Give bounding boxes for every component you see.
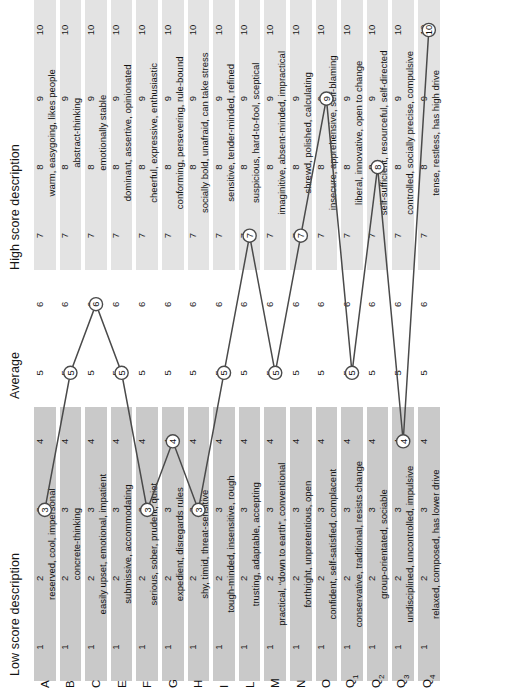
high-score-description: liberal, innovative, open to change (353, 61, 364, 205)
scale-tick: 3 (238, 507, 249, 512)
scale-tick: 7 (341, 233, 352, 238)
rotated-page-wrapper: Low score description Average High score… (0, 0, 510, 690)
factor-row: B12345678910concrete-thinkingabstract-th… (58, 0, 84, 690)
factor-label-L: L (244, 662, 256, 688)
scale-tick: 4 (392, 439, 403, 444)
scale-tick: 2 (59, 576, 70, 581)
factor-label-Q4: Q4 (421, 662, 436, 688)
scale-tick: 2 (341, 576, 352, 581)
factor-row: Q212345678910group-orientated, sociables… (365, 0, 391, 690)
low-score-description: practical, “down to earth”, conventional (276, 463, 287, 626)
scale-tick: 9 (238, 96, 249, 101)
scale-tick: 1 (290, 644, 301, 649)
scale-tick: 1 (187, 644, 198, 649)
scale-tick: 1 (264, 644, 275, 649)
scale-tick: 2 (315, 576, 326, 581)
factor-label-G: G (167, 662, 179, 688)
scale-tick: 7 (136, 233, 147, 238)
scale-tick: 1 (418, 644, 429, 649)
scale-tick: 2 (213, 576, 224, 581)
scale-tick: 8 (187, 164, 198, 169)
scale-tick: 5 (238, 370, 249, 375)
factor-label-M: M (269, 662, 281, 688)
high-score-description: suspicious, hard-to-fool, sceptical (250, 63, 261, 203)
low-score-description: serious, sober, prudent, quiet (148, 483, 159, 606)
high-score-description: socially bold, unafraid, can take stress (199, 53, 210, 214)
scale-tick: 6 (341, 302, 352, 307)
scale-tick: 7 (418, 233, 429, 238)
scale-tick: 8 (264, 164, 275, 169)
low-score-description: forthright, unpretentious, open (302, 481, 313, 608)
profile-grid: A12345678910reserved, cool, impersonalwa… (32, 0, 494, 690)
scale-tick: 3 (187, 507, 198, 512)
high-score-description: emotionally stable (97, 95, 108, 171)
scale-tick: 5 (392, 370, 403, 375)
scale-tick: 7 (290, 233, 301, 238)
scale-tick: 7 (392, 233, 403, 238)
low-score-description-header: Low score description (8, 553, 22, 676)
factor-row: G12345678910expedient, disregards rulesc… (160, 0, 186, 690)
scale-tick: 10 (290, 25, 301, 36)
scale-tick: 2 (418, 576, 429, 581)
scale-tick: 6 (34, 302, 45, 307)
scale-tick: 8 (366, 164, 377, 169)
scale-tick: 10 (341, 25, 352, 36)
factor-label-N: N (295, 662, 307, 688)
scale-tick: 2 (366, 576, 377, 581)
scale-tick: 1 (315, 644, 326, 649)
low-score-description: concrete-thinking (71, 508, 82, 580)
scale-tick: 4 (162, 439, 173, 444)
score-band-mid (213, 270, 235, 407)
scale-tick: 1 (59, 644, 70, 649)
scale-tick: 9 (366, 96, 377, 101)
scale-tick: 6 (315, 302, 326, 307)
factor-label-Q1: Q1 (344, 662, 359, 688)
scale-tick: 10 (392, 25, 403, 36)
factor-label-I: I (218, 662, 230, 688)
scale-tick: 3 (110, 507, 121, 512)
scale-tick: 10 (366, 25, 377, 36)
scale-tick: 10 (213, 25, 224, 36)
scale-tick: 8 (341, 164, 352, 169)
factor-row: N12345678910forthright, unpretentious, o… (288, 0, 314, 690)
scale-tick: 4 (187, 439, 198, 444)
scale-tick: 4 (85, 439, 96, 444)
factor-row: H12345678910shy, timid, threat-sensitive… (186, 0, 212, 690)
factor-label-Q3: Q3 (396, 662, 411, 688)
scale-tick: 2 (34, 576, 45, 581)
scale-tick: 5 (110, 370, 121, 375)
scale-tick: 1 (136, 644, 147, 649)
scale-tick: 8 (290, 164, 301, 169)
scale-tick: 9 (34, 96, 45, 101)
high-score-description: conforming, persevering, rule-bound (174, 57, 185, 210)
scale-tick: 4 (315, 439, 326, 444)
score-band-mid (34, 270, 56, 407)
low-score-description: group-orientated, sociable (378, 489, 389, 599)
scale-tick: 9 (136, 96, 147, 101)
scale-tick: 1 (162, 644, 173, 649)
scale-tick: 2 (136, 576, 147, 581)
scale-tick: 8 (392, 164, 403, 169)
score-band-mid (188, 270, 210, 407)
score-band-mid (162, 270, 184, 407)
factor-row: M12345678910practical, “down to earth”, … (262, 0, 288, 690)
high-score-description: warm, easygoing, likes people (46, 69, 57, 196)
scale-tick: 8 (162, 164, 173, 169)
scale-tick: 5 (34, 370, 45, 375)
factor-label-H: H (192, 662, 204, 688)
scale-tick: 4 (136, 439, 147, 444)
low-score-description: confident, self-satisfied, complacent (327, 469, 338, 620)
factor-row: E12345678910submissive, accommodatingdom… (109, 0, 135, 690)
scale-tick: 10 (162, 25, 173, 36)
factor-row: C12345678910easily upset, emotional, imp… (83, 0, 109, 690)
scale-tick: 9 (418, 96, 429, 101)
low-score-description: tough-minded, insensitive, rough (225, 476, 236, 613)
low-score-description: expedient, disregards rules (174, 487, 185, 601)
scale-tick: 6 (238, 302, 249, 307)
factor-row: A12345678910reserved, cool, impersonalwa… (32, 0, 58, 690)
scale-tick: 1 (85, 644, 96, 649)
sixteen-pf-profile-chart: Low score description Average High score… (0, 0, 510, 690)
low-score-description: submissive, accommodating (122, 485, 133, 604)
scale-tick: 7 (315, 233, 326, 238)
scale-tick: 7 (187, 233, 198, 238)
